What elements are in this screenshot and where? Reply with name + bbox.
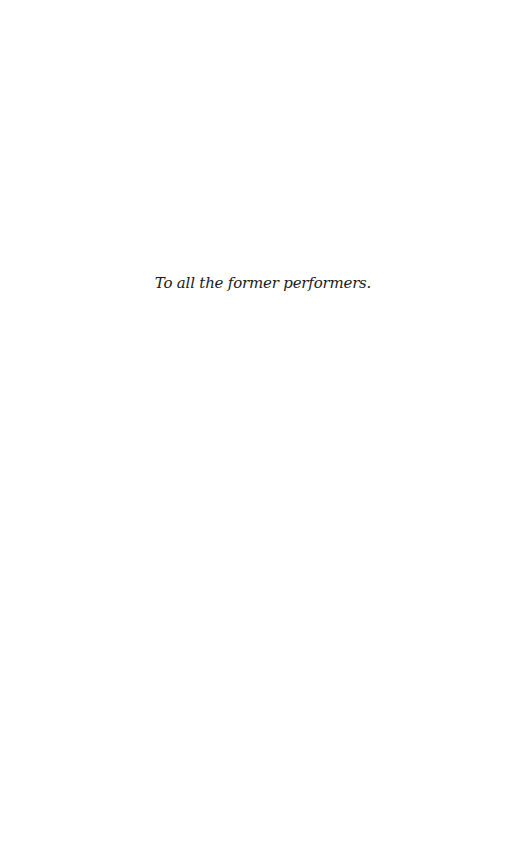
book-page: To all the former performers. <box>0 0 532 862</box>
dedication-text: To all the former performers. <box>0 273 526 293</box>
